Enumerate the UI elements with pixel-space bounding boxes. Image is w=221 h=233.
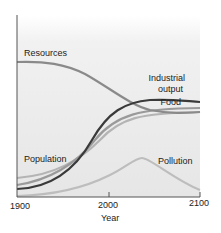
label-population: Population — [24, 154, 67, 164]
x-tick-2100: 2100 — [189, 198, 209, 208]
x-axis-title: Year — [101, 213, 119, 223]
label-resources: Resources — [24, 48, 68, 58]
chart: Resources Industrial output Food Populat… — [0, 0, 221, 233]
label-pollution: Pollution — [158, 156, 193, 166]
x-tick-1900: 1900 — [10, 201, 30, 211]
label-industrial-2: output — [158, 84, 184, 94]
x-tick-2000: 2000 — [98, 200, 118, 210]
label-industrial-1: Industrial — [148, 73, 185, 83]
label-food: Food — [160, 97, 181, 107]
